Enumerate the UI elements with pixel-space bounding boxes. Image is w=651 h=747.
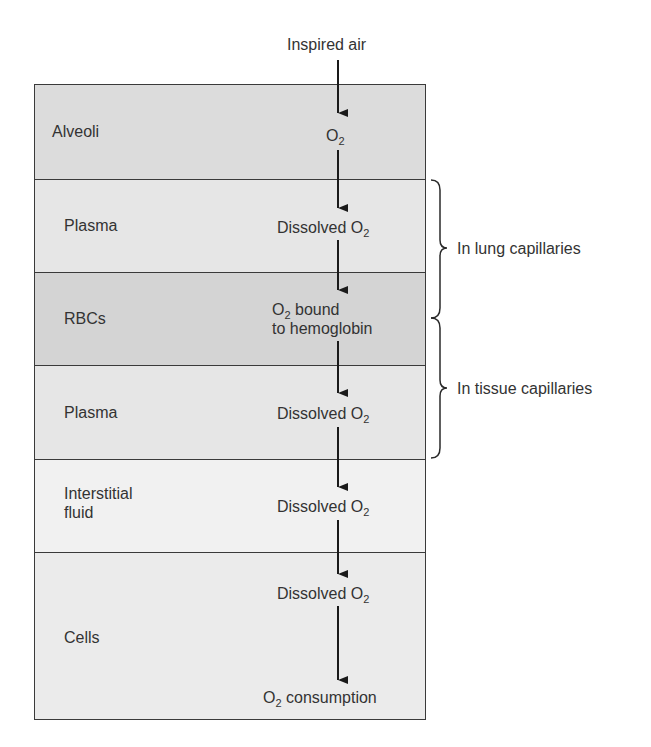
oxygen-transport-diagram: Inspired air Alveoli Plasma RBCs Plasma … — [0, 0, 651, 747]
lung-capillaries-label: In lung capillaries — [457, 239, 581, 258]
tissue-capillaries-label: In tissue capillaries — [457, 379, 592, 398]
brace-lung-capillaries-icon — [431, 180, 447, 318]
arrows-and-braces — [0, 0, 651, 747]
brace-tissue-capillaries-icon — [431, 318, 447, 458]
